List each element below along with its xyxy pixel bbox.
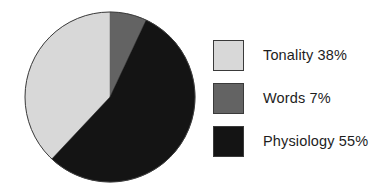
legend-item-words[interactable]: Words 7% (213, 81, 378, 115)
tonality-swatch-icon (213, 40, 244, 71)
legend-label-words: Words 7% (263, 91, 331, 106)
pie-chart-figure: Tonality 38% Words 7% Physiology 55% (0, 0, 382, 189)
pie-chart (24, 11, 196, 183)
legend-label-physiology: Physiology 55% (263, 134, 368, 149)
physiology-swatch-icon (213, 126, 244, 157)
words-swatch-icon (213, 83, 244, 114)
legend-label-tonality: Tonality 38% (263, 48, 347, 63)
pie-slices (25, 12, 195, 182)
legend: Tonality 38% Words 7% Physiology 55% (213, 38, 378, 158)
legend-item-physiology[interactable]: Physiology 55% (213, 124, 378, 158)
pie-chart-svg (24, 11, 196, 183)
legend-item-tonality[interactable]: Tonality 38% (213, 38, 378, 72)
